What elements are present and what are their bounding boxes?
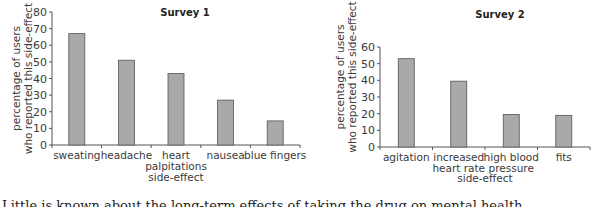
survey2-bar (451, 81, 467, 147)
survey1-bar (118, 60, 134, 145)
survey1-y-tick-label: 70 (33, 23, 47, 36)
survey1-y-tick-label: 30 (33, 89, 47, 102)
survey1-x-tick-label: sweating (53, 149, 100, 161)
survey2-y-axis-label: percentage of users (334, 25, 346, 130)
survey1-bar (168, 74, 184, 145)
survey1-y-tick-label: 10 (33, 122, 47, 135)
survey2-y-tick-label: 40 (361, 74, 375, 87)
survey1-chart-title: Survey 1 (160, 7, 210, 18)
survey1-y-tick-label: 20 (33, 106, 47, 119)
survey2-chart-title: Survey 2 (475, 9, 525, 20)
survey1-y-tick-label: 80 (33, 6, 47, 19)
footer-text: Little is known about the long-term effe… (2, 198, 527, 207)
survey1-bar (218, 100, 234, 145)
survey2-y-tick-label: 20 (361, 108, 375, 121)
survey1-y-tick-label: 50 (33, 56, 47, 69)
survey2-x-tick-label: fits (556, 151, 572, 163)
survey1-x-tick-label: nausea (207, 149, 245, 161)
survey2-bar (556, 115, 572, 147)
survey1-x-axis-label: side-effect (148, 171, 203, 183)
survey2-bar (503, 115, 519, 148)
charts-canvas: Survey 101020304050607080sweatingheadach… (0, 0, 602, 207)
survey1-y-tick-label: 60 (33, 39, 47, 52)
survey1-bar (69, 34, 85, 145)
survey1-y-tick-label: 0 (40, 139, 47, 152)
survey2-y-tick-label: 0 (368, 141, 375, 154)
survey2-y-tick-label: 50 (361, 58, 375, 71)
survey2-y-tick-label: 60 (361, 41, 375, 54)
survey2-x-axis-label: side-effect (457, 172, 512, 184)
survey2-bar (398, 59, 414, 147)
survey2-y-tick-label: 10 (361, 124, 375, 137)
survey1-y-tick-label: 40 (33, 73, 47, 86)
survey2-y-tick-label: 30 (361, 91, 375, 104)
survey2-x-tick-label: agitation (383, 151, 430, 163)
survey1-y-axis-label: percentage of users (10, 26, 22, 131)
survey1-x-tick-label: blue fingers (244, 149, 306, 161)
survey1-y-axis-label: who reported this side-effect (22, 3, 34, 154)
survey2-y-axis-label: who reported this side-effect (346, 1, 358, 152)
survey1-bar (267, 121, 283, 145)
